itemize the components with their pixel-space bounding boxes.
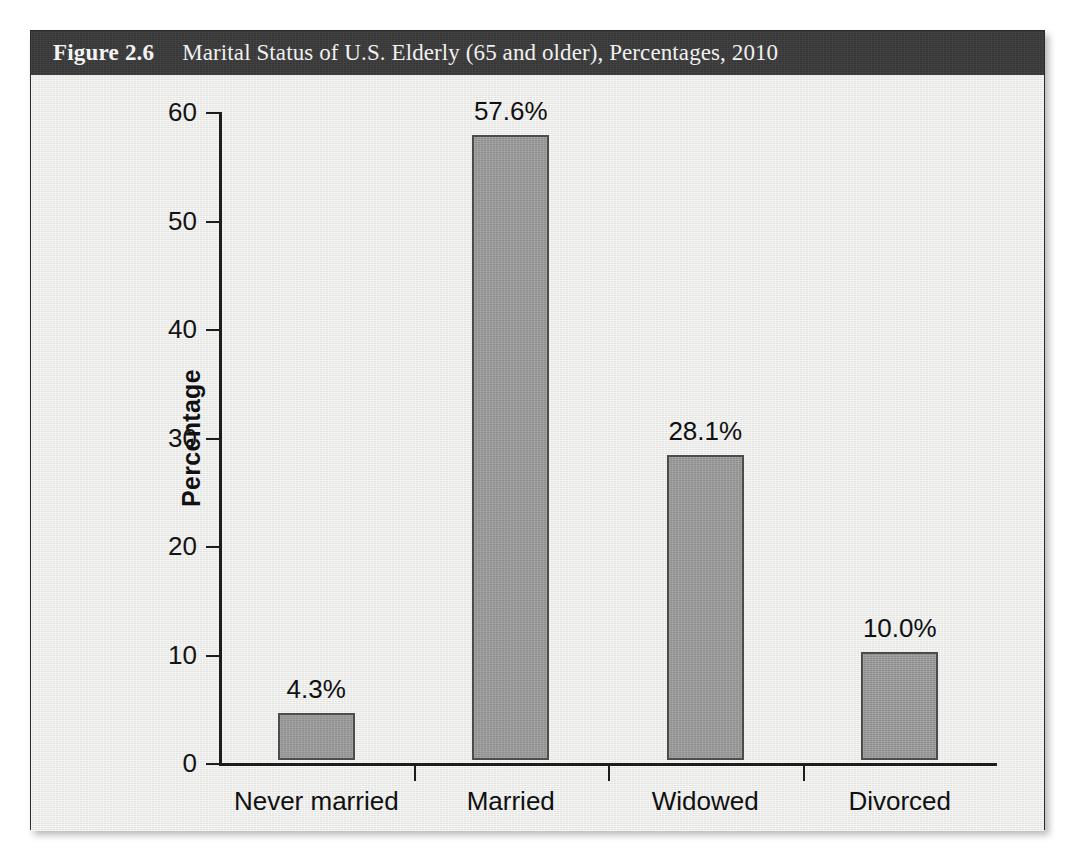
bar-value-label: 10.0% — [820, 615, 980, 641]
y-tick-mark — [206, 221, 219, 223]
x-category-label: Widowed — [608, 788, 803, 814]
x-category-label: Married — [414, 788, 609, 814]
y-tick-mark — [206, 763, 219, 765]
y-tick-mark — [206, 546, 219, 548]
y-tick-label: 20 — [109, 533, 197, 559]
bar-never-married — [278, 713, 355, 760]
x-category-label: Never married — [219, 788, 414, 814]
figure-number: Figure 2.6 — [53, 40, 154, 66]
figure-frame: Figure 2.6 Marital Status of U.S. Elderl… — [30, 30, 1045, 830]
y-tick-label: 60 — [109, 99, 197, 125]
y-tick-label: 10 — [109, 642, 197, 668]
bar-divorced — [861, 652, 938, 761]
chart-panel: Percentage 0102030405060 4.3%57.6%28.1%1… — [31, 75, 1044, 831]
bar-value-label: 57.6% — [431, 98, 591, 124]
figure-title: Marital Status of U.S. Elderly (65 and o… — [182, 40, 778, 66]
x-tick-mark — [414, 766, 416, 781]
y-tick-mark — [206, 655, 219, 657]
y-tick-label: 0 — [109, 750, 197, 776]
y-tick-mark — [206, 329, 219, 331]
x-tick-mark — [803, 766, 805, 781]
bar-married — [472, 135, 549, 760]
y-tick-label: 40 — [109, 316, 197, 342]
bar-widowed — [667, 455, 744, 760]
y-tick-mark — [206, 112, 219, 114]
y-axis-line — [219, 112, 222, 763]
bar-value-label: 4.3% — [236, 676, 396, 702]
y-tick-label: 50 — [109, 208, 197, 234]
plot-area: Percentage 0102030405060 4.3%57.6%28.1%1… — [219, 112, 997, 763]
x-tick-mark — [608, 766, 610, 781]
y-tick-label: 30 — [109, 425, 197, 451]
y-tick-mark — [206, 438, 219, 440]
x-category-label: Divorced — [803, 788, 998, 814]
figure-caption-bar: Figure 2.6 Marital Status of U.S. Elderl… — [31, 31, 1044, 75]
bar-value-label: 28.1% — [625, 418, 785, 444]
